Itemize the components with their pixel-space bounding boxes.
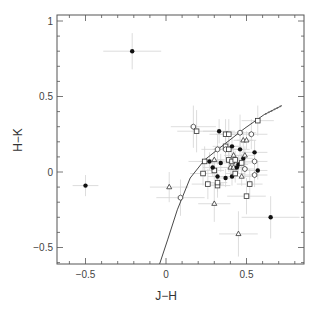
x-tick-label: 0.5 — [240, 269, 254, 280]
filled-circle-marker — [207, 159, 211, 163]
filled-circle-marker — [210, 165, 214, 169]
open-square-marker — [244, 194, 249, 199]
open-hexagon-marker — [243, 166, 248, 171]
x-axis-title: J−H — [155, 289, 177, 303]
y-axis-ticks: −0.500.51 — [33, 16, 304, 263]
x-axis-ticks: −0.500.5 — [69, 15, 294, 280]
y-axis-title: H−K — [11, 128, 25, 152]
y-tick-label: 0.5 — [39, 91, 53, 102]
open-square-marker — [233, 158, 238, 163]
open-square-marker — [226, 132, 231, 137]
open-triangle-marker — [236, 231, 241, 235]
filled-circle-marker — [217, 129, 221, 133]
open-hexagon-marker — [252, 159, 256, 164]
open-square-marker — [247, 182, 252, 187]
curve-tick — [265, 113, 267, 115]
filled-circle-marker — [256, 168, 260, 172]
open-square-marker — [206, 182, 211, 187]
open-hexagon-marker — [215, 147, 220, 152]
open-hexagon-marker — [249, 132, 254, 137]
scatter-chart: −0.500.5 −0.500.51 J−H H−K — [0, 0, 323, 312]
error-bars — [73, 33, 300, 256]
plot-frame — [57, 15, 304, 264]
filled-circle-marker — [215, 174, 219, 178]
filled-circle-marker — [83, 183, 87, 187]
filled-circle-marker — [268, 215, 272, 219]
filled-circle-marker — [130, 49, 134, 53]
locus-curve — [160, 106, 282, 264]
open-square-marker — [202, 159, 207, 164]
filled-circle-marker — [219, 161, 223, 165]
y-tick-label: 0 — [47, 167, 53, 178]
open-square-marker — [255, 118, 260, 123]
filled-circle-marker — [235, 165, 239, 169]
curve-tick — [268, 111, 270, 113]
filled-circle-marker — [230, 144, 234, 148]
open-triangle-marker — [239, 174, 244, 178]
x-tick-label: −0.5 — [76, 269, 96, 280]
curve-tick — [279, 105, 281, 107]
y-tick-label: −0.5 — [33, 242, 53, 253]
curve-tick — [277, 107, 279, 109]
open-square-marker — [239, 161, 244, 166]
y-tick-label: 1 — [47, 16, 53, 27]
open-square-marker — [201, 171, 206, 176]
open-square-marker — [215, 180, 220, 185]
filled-circle-marker — [252, 150, 256, 154]
open-triangle-marker — [167, 184, 172, 188]
open-triangle-marker — [212, 201, 217, 205]
curve-tick — [271, 110, 273, 112]
x-tick-label: 0 — [163, 269, 169, 280]
open-hexagon-marker — [178, 195, 183, 200]
curve-tick — [274, 108, 276, 110]
filled-circle-marker — [238, 147, 242, 151]
open-hexagon-marker — [252, 172, 256, 177]
open-square-marker — [233, 171, 238, 176]
open-hexagon-marker — [238, 130, 243, 135]
open-square-marker — [194, 129, 199, 134]
open-hexagon-marker — [191, 124, 196, 129]
filled-circle-marker — [223, 176, 227, 180]
